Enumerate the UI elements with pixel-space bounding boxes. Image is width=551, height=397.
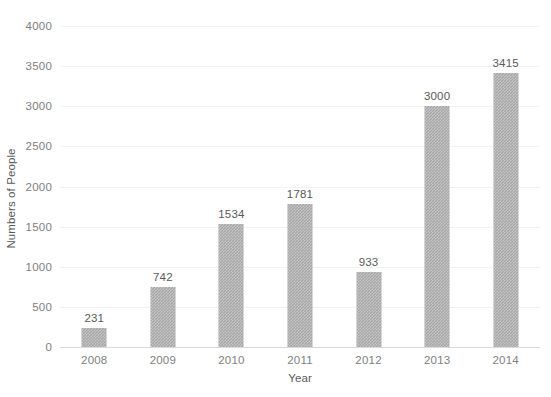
bar-value-label: 1781	[287, 188, 313, 200]
x-tick-label: 2013	[424, 354, 450, 366]
plot-area: 2317421534178193330003415	[60, 26, 540, 347]
y-tick-label: 1000	[6, 261, 52, 273]
x-axis-title: Year	[60, 372, 540, 384]
bars-layer: 2317421534178193330003415	[60, 26, 540, 347]
y-tick-label: 2000	[6, 181, 52, 193]
y-tick-label: 2500	[6, 140, 52, 152]
bar-value-label: 933	[359, 256, 379, 268]
bar-value-label: 3000	[424, 90, 450, 102]
bar-group: 3000	[403, 26, 472, 347]
bar-group: 1534	[197, 26, 266, 347]
x-tick-label: 2012	[355, 354, 381, 366]
bar-value-label: 231	[84, 312, 104, 324]
bar-value-label: 742	[153, 271, 173, 283]
y-tick-label: 3500	[6, 60, 52, 72]
x-tick-label: 2009	[150, 354, 176, 366]
x-tick-label: 2014	[493, 354, 519, 366]
bar-chart: Numbers of People 2317421534178193330003…	[0, 0, 551, 397]
bar[interactable]	[425, 106, 450, 347]
bar-value-label: 1534	[218, 208, 244, 220]
bar[interactable]	[150, 287, 175, 347]
y-tick-label: 0	[6, 341, 52, 353]
bar[interactable]	[219, 224, 244, 347]
bar-group: 1781	[266, 26, 335, 347]
y-tick-label: 1500	[6, 221, 52, 233]
bar-group: 231	[60, 26, 129, 347]
y-tick-label: 500	[6, 301, 52, 313]
bar[interactable]	[356, 272, 381, 347]
bar-group: 933	[334, 26, 403, 347]
y-tick-label: 3000	[6, 100, 52, 112]
bar[interactable]	[493, 73, 518, 347]
bar[interactable]	[82, 328, 107, 347]
x-tick-label: 2010	[218, 354, 244, 366]
bar[interactable]	[287, 204, 312, 347]
x-tick-label: 2008	[81, 354, 107, 366]
bar-group: 742	[129, 26, 198, 347]
bar-value-label: 3415	[493, 57, 519, 69]
x-tick-label: 2011	[287, 354, 313, 366]
y-tick-label: 4000	[6, 20, 52, 32]
bar-group: 3415	[471, 26, 540, 347]
gridline	[60, 347, 540, 348]
